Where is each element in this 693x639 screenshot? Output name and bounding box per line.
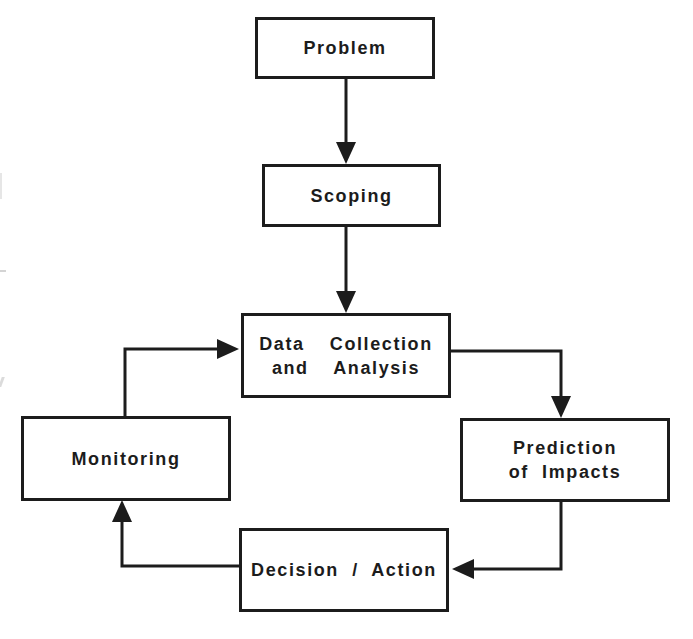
node-scoping: Scoping [262,164,441,227]
arrowhead-up-icon [112,500,132,522]
node-label-line-2: and Analysis [272,356,420,380]
node-label: Scoping [310,184,392,208]
edge-prediction-to-decision [470,501,561,569]
arrowhead-down-icon [336,291,356,313]
arrowhead-down-icon [551,396,571,418]
node-monitoring: Monitoring [21,416,231,501]
arrowhead-down-icon [336,142,356,164]
edge-decision-to-monitoring [122,518,239,566]
arrowhead-right-icon [217,339,239,359]
edge-data-collection-to-prediction [450,351,561,400]
node-problem: Problem [255,17,435,79]
node-label: Problem [303,36,386,60]
node-label: Monitoring [72,447,181,471]
node-data-collection: Data Collection and Analysis [241,313,451,398]
node-prediction: Prediction of Impacts [460,418,670,502]
arrowhead-left-icon [452,559,474,579]
node-label-line-2: of Impacts [509,460,622,484]
node-decision: Decision / Action [239,528,449,612]
flowchart-canvas: Problem Scoping Data Collection and Anal… [0,0,693,639]
node-label-line-1: Prediction [513,436,617,460]
edge-monitoring-to-data-collection [125,349,221,416]
node-label: Decision / Action [251,558,437,582]
node-label-line-1: Data Collection [259,332,433,356]
